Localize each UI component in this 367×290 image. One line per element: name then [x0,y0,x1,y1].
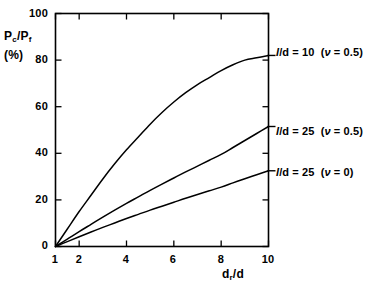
curve-series-0 [56,55,269,246]
curve-series-1 [56,127,269,247]
plot-area [0,0,367,290]
chart-figure: Pc/Pf (%) 100 80 60 40 20 0 1 2 4 6 8 10… [0,0,367,290]
curve-series-2 [56,171,269,247]
axis-ticks [56,14,269,247]
axes-box [56,14,269,247]
data-curves [56,55,276,246]
